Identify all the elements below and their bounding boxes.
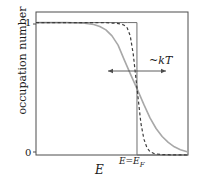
x-axis-label: E (95, 164, 104, 176)
kt-annotation-label: ~kT (149, 55, 172, 66)
kt-arrow-head-left (108, 69, 113, 74)
curve-zero-temperature-step (36, 23, 188, 155)
y-tick-label-zero: 0 (25, 148, 31, 158)
curve-higher-temperature (36, 23, 188, 153)
fermi-level-label-main: E=E (119, 156, 140, 166)
curve-low-temperature (36, 23, 188, 155)
kt-symbol: kT (158, 54, 172, 67)
fermi-level-label-subscript: F (140, 161, 145, 169)
y-tick-label-one: 1 (25, 18, 31, 28)
fermi-dirac-occupation-figure: occupation number 1 0 E E=EF ~kT (0, 0, 200, 186)
kt-tilde: ~ (149, 54, 158, 67)
axes-frame-rect (36, 12, 188, 155)
fermi-level-label: E=EF (119, 157, 145, 169)
data-curves (36, 23, 188, 155)
plot-frame (36, 12, 188, 155)
kt-arrow-head-right (161, 69, 166, 74)
